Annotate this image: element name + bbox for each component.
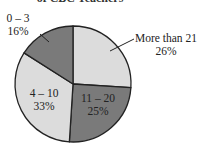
label-11-20-pct: 25%: [78, 105, 118, 118]
label-more-than-21-pct: 26%: [133, 45, 199, 58]
label-4-10-pct: 33%: [26, 100, 62, 113]
label-11-20: 11 – 20 25%: [78, 92, 118, 118]
label-0-3: 0 – 3 16%: [4, 12, 32, 38]
label-more-than-21: More than 21 26%: [133, 32, 199, 58]
label-0-3-name: 0 – 3: [4, 12, 32, 25]
label-more-than-21-name: More than 21: [133, 32, 199, 45]
pie-slice-more-than-21: [73, 26, 131, 88]
label-4-10: 4 – 10 33%: [26, 87, 62, 113]
label-11-20-name: 11 – 20: [78, 92, 118, 105]
label-0-3-pct: 16%: [4, 25, 32, 38]
label-4-10-name: 4 – 10: [26, 87, 62, 100]
